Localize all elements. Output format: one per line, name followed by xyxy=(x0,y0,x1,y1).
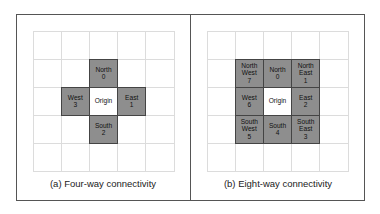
cell-label: South 2 xyxy=(95,122,112,137)
empty-cell xyxy=(61,31,90,60)
empty-cell xyxy=(61,143,90,172)
neighbor-cell: South East 3 xyxy=(291,115,320,144)
empty-cell xyxy=(291,143,320,172)
empty-cell xyxy=(145,143,174,172)
empty-cell xyxy=(319,59,348,88)
neighbor-cell: West 3 xyxy=(61,87,90,116)
panel-divider xyxy=(190,14,191,201)
empty-cell xyxy=(33,143,62,172)
neighbor-cell: North 0 xyxy=(263,59,292,88)
empty-cell xyxy=(33,31,62,60)
empty-cell xyxy=(319,87,348,116)
neighbor-cell: South 4 xyxy=(263,115,292,144)
cell-label: South East 3 xyxy=(297,118,314,140)
empty-cell xyxy=(207,59,236,88)
cell-label: East 2 xyxy=(299,94,312,109)
empty-cell xyxy=(117,31,146,60)
cell-label: North 0 xyxy=(95,66,111,81)
cell-label: North 0 xyxy=(269,66,285,81)
neighbor-cell: North East 1 xyxy=(291,59,320,88)
cell-label: North East 1 xyxy=(298,62,314,84)
empty-cell xyxy=(145,31,174,60)
empty-cell xyxy=(117,143,146,172)
eight-way-grid: North West 7North 0North East 1West 6Ori… xyxy=(207,31,348,171)
empty-cell xyxy=(235,31,264,60)
empty-cell xyxy=(145,115,174,144)
empty-cell xyxy=(207,87,236,116)
cell-label: South West 5 xyxy=(241,118,258,140)
empty-cell xyxy=(33,87,62,116)
empty-cell xyxy=(207,31,236,60)
empty-cell xyxy=(33,115,62,144)
neighbor-cell: East 1 xyxy=(117,87,146,116)
cell-label: Origin xyxy=(269,97,287,104)
empty-cell xyxy=(207,115,236,144)
neighbor-cell: South West 5 xyxy=(235,115,264,144)
empty-cell xyxy=(235,143,264,172)
neighbor-cell: North 0 xyxy=(89,59,118,88)
empty-cell xyxy=(263,143,292,172)
neighbor-cell: East 2 xyxy=(291,87,320,116)
cell-label: South 4 xyxy=(269,122,286,137)
empty-cell xyxy=(145,87,174,116)
neighbor-cell: North West 7 xyxy=(235,59,264,88)
empty-cell xyxy=(89,31,118,60)
empty-cell xyxy=(61,59,90,88)
empty-cell xyxy=(61,115,90,144)
empty-cell xyxy=(89,143,118,172)
empty-cell xyxy=(117,59,146,88)
cell-label: West 3 xyxy=(68,94,83,109)
origin-cell: Origin xyxy=(263,87,292,116)
four-way-grid: North 0West 3OriginEast 1South 2 xyxy=(33,31,174,171)
empty-cell xyxy=(117,115,146,144)
cell-label: Origin xyxy=(95,97,113,104)
origin-cell: Origin xyxy=(89,87,118,116)
neighbor-cell: South 2 xyxy=(89,115,118,144)
eight-way-caption: (b) Eight-way connectivity xyxy=(191,178,365,189)
empty-cell xyxy=(263,31,292,60)
empty-cell xyxy=(33,59,62,88)
cell-label: North West 7 xyxy=(241,62,257,84)
empty-cell xyxy=(319,143,348,172)
empty-cell xyxy=(145,59,174,88)
cell-label: West 6 xyxy=(242,94,257,109)
neighbor-cell: West 6 xyxy=(235,87,264,116)
empty-cell xyxy=(319,31,348,60)
empty-cell xyxy=(291,31,320,60)
empty-cell xyxy=(319,115,348,144)
four-way-caption: (a) Four-way connectivity xyxy=(16,178,190,189)
empty-cell xyxy=(207,143,236,172)
cell-label: East 1 xyxy=(125,94,138,109)
